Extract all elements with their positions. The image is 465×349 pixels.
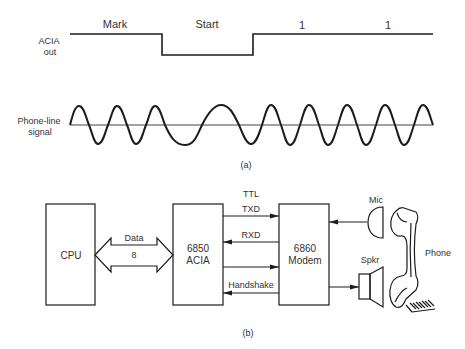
acia-label-line1: 6850 — [186, 243, 209, 255]
mic-icon — [368, 207, 383, 238]
txd-label: TXD — [242, 204, 260, 214]
segment-label-mark: Mark — [103, 19, 127, 30]
phone-line-label-line1: Phone-line — [17, 116, 60, 126]
modem-label-line1: 6860 — [288, 243, 321, 255]
acia-out-waveform — [70, 34, 433, 55]
acia-label: 6850 ACIA — [186, 243, 209, 267]
segment-label-start: Start — [195, 19, 218, 30]
mic-to-modem-line — [329, 220, 367, 225]
modem-to-speaker-line — [329, 285, 359, 290]
modem-label: 6860 Modem — [288, 243, 321, 267]
caption-b: (b) — [243, 328, 254, 338]
caption-a: (a) — [241, 160, 252, 170]
txd-line — [223, 214, 279, 219]
data-bus-label: Data — [124, 233, 143, 243]
data-bus-width: 8 — [131, 250, 136, 260]
acia-out-label-line2: out — [44, 47, 57, 57]
speaker-label: Spkr — [361, 255, 380, 265]
segment-label-bit1: 1 — [299, 20, 305, 31]
rxd-label: RXD — [241, 230, 260, 240]
diagram-canvas — [0, 0, 465, 349]
phone-handset-icon — [390, 208, 435, 312]
mic-label: Mic — [369, 195, 383, 205]
speaker-icon — [359, 267, 383, 307]
handshake-out-line — [223, 265, 279, 270]
segment-label-bit2: 1 — [385, 20, 391, 31]
handshake-in-line — [223, 291, 279, 296]
modem-label-line2: Modem — [288, 255, 321, 267]
phone-label: Phone — [425, 248, 451, 258]
acia-label-line2: ACIA — [186, 255, 209, 267]
acia-out-label-line1: ACIA — [38, 36, 59, 46]
cpu-label: CPU — [60, 250, 81, 262]
rxd-line — [223, 240, 279, 245]
handshake-label: Handshake — [228, 280, 274, 290]
phone-line-label-line2: signal — [28, 127, 52, 137]
ttl-label: TTL — [243, 189, 259, 199]
